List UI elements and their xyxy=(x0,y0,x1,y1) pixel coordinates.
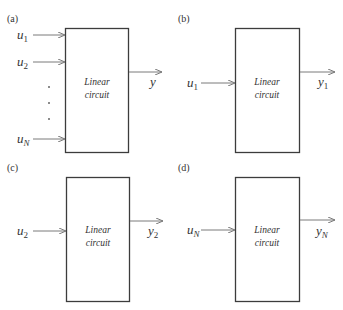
input-label-u1: u1 xyxy=(17,28,28,44)
ellipsis-dot xyxy=(48,118,50,120)
box-text-c: Linearcircuit xyxy=(66,224,130,250)
output-label-y: y xyxy=(150,75,156,91)
box-text-b: Linearcircuit xyxy=(235,76,299,102)
panel-label-a: (a) xyxy=(7,14,18,24)
input-label-uN: uN xyxy=(17,132,30,148)
ellipsis-dot xyxy=(48,86,50,88)
input-label-u2: u2 xyxy=(17,224,28,240)
input-label-u1: u1 xyxy=(187,76,198,92)
input-label-uN: uN xyxy=(187,223,200,239)
diagram-canvas xyxy=(0,0,343,310)
box-text-a: Linearcircuit xyxy=(65,76,129,102)
ellipsis-dot xyxy=(48,102,50,104)
panel-label-d: (d) xyxy=(178,163,190,173)
input-label-u2: u2 xyxy=(17,55,28,71)
output-label-y1: y1 xyxy=(318,75,328,91)
output-label-yN: yN xyxy=(316,224,328,240)
output-label-y2: y2 xyxy=(148,224,158,240)
panel-label-b: (b) xyxy=(178,14,190,24)
panel-label-c: (c) xyxy=(7,163,18,173)
box-text-d: Linearcircuit xyxy=(235,224,299,250)
